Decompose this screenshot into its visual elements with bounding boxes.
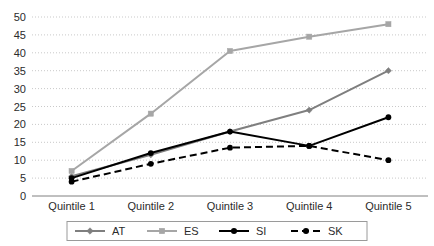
y-axis-tick-label: 45 xyxy=(14,29,26,41)
y-axis-tick-label: 10 xyxy=(14,154,26,166)
y-axis-tick-label: 0 xyxy=(20,190,26,202)
y-axis-tick-label: 40 xyxy=(14,47,26,59)
legend: ATESSISK xyxy=(67,222,367,241)
legend-marker-si xyxy=(231,228,237,234)
x-axis-tick-label: Quintile 5 xyxy=(365,200,411,212)
x-axis-tick-label: Quintile 4 xyxy=(286,200,332,212)
legend-marker-es xyxy=(159,228,164,233)
y-axis-labels: 05101520253035404550 xyxy=(14,11,26,202)
chart-canvas: 05101520253035404550 Quintile 1Quintile … xyxy=(0,0,434,246)
y-axis-tick-label: 30 xyxy=(14,83,26,95)
data-point-es xyxy=(386,22,391,27)
y-axis-tick-label: 50 xyxy=(14,11,26,23)
x-axis-tick-label: Quintile 3 xyxy=(207,200,253,212)
grid-layer xyxy=(32,17,428,178)
line-chart: 05101520253035404550 Quintile 1Quintile … xyxy=(0,0,434,246)
legend-label-si: SI xyxy=(256,225,266,237)
data-point-sk xyxy=(148,161,154,167)
legend-label-at: AT xyxy=(112,225,126,237)
legend-label-es: ES xyxy=(184,225,199,237)
legend-label-sk: SK xyxy=(328,225,343,237)
series-es xyxy=(69,22,391,174)
data-point-sk xyxy=(227,145,233,151)
y-axis-tick-label: 20 xyxy=(14,118,26,130)
data-point-si xyxy=(148,150,154,156)
series-at xyxy=(69,68,392,180)
data-point-sk xyxy=(306,143,312,149)
x-axis-tick-label: Quintile 1 xyxy=(48,200,94,212)
data-point-sk xyxy=(69,179,75,185)
data-point-si xyxy=(227,129,233,135)
x-axis-labels: Quintile 1Quintile 2Quintile 3Quintile 4… xyxy=(48,200,411,212)
data-point-es xyxy=(227,48,232,53)
data-point-si xyxy=(386,114,392,120)
y-axis-tick-label: 5 xyxy=(20,172,26,184)
x-axis-tick-label: Quintile 2 xyxy=(128,200,174,212)
legend-marker-sk xyxy=(303,228,309,234)
y-axis-tick-label: 25 xyxy=(14,101,26,113)
y-axis-tick-label: 35 xyxy=(14,65,26,77)
data-point-es xyxy=(148,111,153,116)
y-axis-tick-label: 15 xyxy=(14,136,26,148)
data-point-es xyxy=(69,168,74,173)
data-point-sk xyxy=(386,157,392,163)
data-point-es xyxy=(307,34,312,39)
